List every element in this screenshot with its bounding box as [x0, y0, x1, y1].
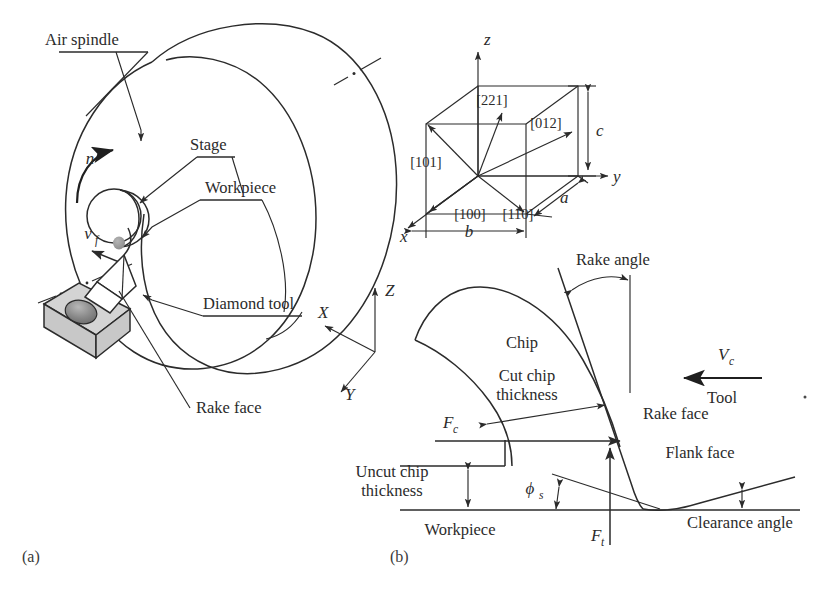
panel-b-cutting-diagram: Rake angle Chip Cut chip thickness F c U…	[356, 250, 807, 566]
panel-a-spindle-assembly: n v f Air spindle Stage Workpiece	[22, 24, 397, 566]
leader-air-spindle	[116, 52, 141, 141]
stray-dot	[804, 396, 807, 399]
svg-text:ϕ: ϕ	[526, 479, 535, 498]
crystal-axis-label-z: z	[483, 30, 491, 49]
dimension-a: a	[526, 176, 588, 217]
leader-workpiece	[142, 200, 200, 238]
label-stage: Stage	[190, 135, 227, 154]
direction-label-221: [221]	[476, 92, 507, 108]
label-cutting-speed-Vc: V c	[718, 345, 734, 367]
axis-label-z: Z	[385, 281, 395, 300]
caption-panel-a: (a)	[22, 548, 40, 566]
caption-panel-b: (b)	[390, 548, 409, 566]
axis-label-y: Y	[345, 385, 356, 404]
label-workpiece-b: Workpiece	[424, 520, 495, 539]
air-spindle-body-outline	[150, 24, 397, 374]
dimension-label-c: c	[596, 121, 604, 140]
dimension-label-b: b	[465, 222, 474, 241]
panel-crystal-unit-cell: z y x [221] [012] [101] [100] [110] c b	[399, 30, 621, 246]
label-workpiece: Workpiece	[205, 178, 276, 197]
leader-air-spindle-2	[86, 52, 148, 116]
cut-chip-thickness-arrow	[487, 405, 605, 424]
svg-text:v: v	[84, 224, 92, 243]
label-uncut-chip-thickness-line2: thickness	[361, 481, 422, 500]
label-shear-angle-phis: ϕ s	[526, 479, 544, 501]
label-tool: Tool	[707, 388, 737, 407]
label-cutting-force-Fc: F c	[442, 413, 458, 435]
direction-label-012: [012]	[530, 115, 561, 131]
svg-text:c: c	[729, 355, 734, 367]
direction-label-101: [101]	[410, 154, 441, 170]
axis-label-x: X	[317, 303, 329, 322]
label-flank-face: Flank face	[665, 443, 734, 462]
figure-container: n v f Air spindle Stage Workpiece	[0, 0, 832, 606]
crystal-axis-label-y: y	[611, 167, 621, 186]
svg-text:t: t	[601, 536, 605, 548]
axis-triad-xyz: Z X Y	[317, 281, 395, 404]
label-air-spindle: Air spindle	[45, 30, 119, 49]
shear-angle-arrow	[556, 487, 559, 509]
label-rake-angle: Rake angle	[576, 250, 650, 269]
label-rake-face-a: Rake face	[196, 398, 262, 417]
label-diamond-tool: Diamond tool	[203, 294, 295, 313]
label-clearance-angle: Clearance angle	[687, 513, 793, 532]
dimension-label-a: a	[560, 188, 569, 207]
svg-text:s: s	[539, 489, 544, 501]
air-spindle-body-lower-outline	[142, 214, 150, 302]
dimension-c: c	[568, 86, 604, 176]
label-cut-chip-thickness-line1: Cut chip	[499, 366, 555, 385]
workpiece-contact-dot	[113, 237, 125, 250]
flank-face-line	[643, 477, 795, 510]
direction-label-100: [100]	[454, 206, 485, 222]
figure-svg: n v f Air spindle Stage Workpiece	[0, 0, 832, 606]
label-cut-chip-thickness-line2: thickness	[496, 385, 557, 404]
svg-text:c: c	[453, 423, 458, 435]
label-uncut-chip-thickness-line1: Uncut chip	[356, 462, 429, 481]
rotation-symbol-n: n	[86, 149, 95, 168]
label-thrust-force-Ft: F t	[590, 526, 605, 548]
crystal-axis-label-x: x	[399, 227, 408, 246]
label-chip: Chip	[506, 333, 538, 352]
shear-plane-line	[552, 474, 660, 509]
rake-angle-arc	[572, 277, 628, 290]
label-rake-face-b: Rake face	[643, 404, 709, 423]
leader-stage	[140, 157, 197, 203]
spindle-axis-centerline	[334, 58, 381, 85]
